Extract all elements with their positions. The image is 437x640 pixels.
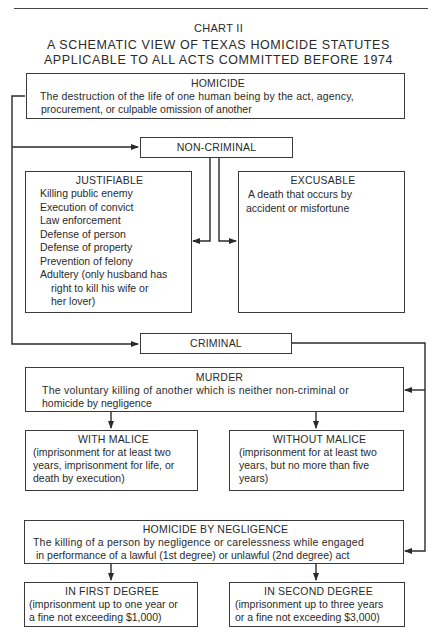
murder-box: MURDER The voluntary killing of another … xyxy=(25,367,404,412)
justifiable-item-adultery: Adultery (only husband has right to kill… xyxy=(40,268,187,309)
without-malice-line-3: years) xyxy=(239,472,400,485)
with-malice-line-2: years, imprisonment for life, or xyxy=(33,459,194,472)
chart-label: CHART II xyxy=(0,22,437,34)
murder-heading: MURDER xyxy=(42,371,397,384)
criminal-box: CRIMINAL xyxy=(140,333,292,354)
homicide-heading: HOMICIDE xyxy=(40,77,396,90)
justifiable-list: Killing public enemy Execution of convic… xyxy=(40,187,187,309)
chart-title: A SCHEMATIC VIEW OF TEXAS HOMICIDE STATU… xyxy=(0,38,437,68)
chart-title-line-1: A SCHEMATIC VIEW OF TEXAS HOMICIDE STATU… xyxy=(0,38,437,53)
second-degree-line-1: (imprisonment up to three years xyxy=(235,598,402,611)
justifiable-item: Law enforcement xyxy=(40,214,187,228)
homicide-definition-line-1: The destruction of the life of one human… xyxy=(40,90,396,103)
justifiable-item: Defense of property xyxy=(40,241,187,255)
excusable-box: EXCUSABLE A death that occurs by acciden… xyxy=(238,171,405,313)
second-degree-line-2: or a fine not exceeding $3,000) xyxy=(235,611,402,624)
non-criminal-label: NON-CRIMINAL xyxy=(141,138,292,156)
negligence-heading: HOMICIDE BY NEGLIGENCE xyxy=(33,523,398,536)
homicide-definition-line-2: procurement, or culpable omission of ano… xyxy=(40,103,396,116)
adultery-line-3: her lover) xyxy=(40,295,187,309)
top-rule xyxy=(14,8,428,9)
negligence-box: HOMICIDE BY NEGLIGENCE The killing of a … xyxy=(24,520,404,564)
excusable-heading: EXCUSABLE xyxy=(246,174,400,187)
without-malice-heading: WITHOUT MALICE xyxy=(239,433,400,446)
justifiable-item: Defense of person xyxy=(40,228,187,242)
without-malice-box: WITHOUT MALICE (imprisonment for at leas… xyxy=(229,430,404,491)
second-degree-box: IN SECOND DEGREE (imprisonment up to thr… xyxy=(229,582,405,627)
justifiable-item: Prevention of felony xyxy=(40,255,187,269)
negligence-definition-line-2: in performance of a lawful (1st degree) … xyxy=(33,549,398,562)
homicide-box: HOMICIDE The destruction of the life of … xyxy=(26,73,405,119)
without-malice-line-1: (imprisonment for at least two xyxy=(239,446,400,459)
first-degree-line-1: (imprisonment up to one year or xyxy=(29,598,195,611)
justifiable-box: JUSTIFIABLE Killing public enemy Executi… xyxy=(25,171,192,313)
first-degree-line-2: a fine not exceeding $1,000) xyxy=(29,611,195,624)
chart-title-line-2: APPLICABLE TO ALL ACTS COMMITTED BEFORE … xyxy=(0,53,437,68)
second-degree-heading: IN SECOND DEGREE xyxy=(235,585,402,598)
first-degree-heading: IN FIRST DEGREE xyxy=(29,585,195,598)
adultery-line-2: right to kill his wife or xyxy=(40,282,187,296)
murder-definition-line-2: homicide by negligence xyxy=(42,397,397,410)
excusable-line-2: accident or misfortune xyxy=(246,201,400,215)
with-malice-line-1: (imprisonment for at least two xyxy=(33,446,194,459)
without-malice-line-2: years, but no more than five xyxy=(239,459,400,472)
justifiable-heading: JUSTIFIABLE xyxy=(40,174,187,187)
non-criminal-box: NON-CRIMINAL xyxy=(140,137,293,158)
criminal-label: CRIMINAL xyxy=(141,334,291,352)
murder-definition-line-1: The voluntary killing of another which i… xyxy=(42,384,397,397)
justifiable-item: Execution of convict xyxy=(40,201,187,215)
with-malice-line-3: death by execution) xyxy=(33,472,194,485)
with-malice-box: WITH MALICE (imprisonment for at least t… xyxy=(25,430,198,491)
with-malice-heading: WITH MALICE xyxy=(33,433,194,446)
first-degree-box: IN FIRST DEGREE (imprisonment up to one … xyxy=(24,582,198,627)
adultery-line-1: Adultery (only husband has xyxy=(40,268,167,280)
negligence-definition-line-1: The killing of a person by negligence or… xyxy=(33,536,398,549)
excusable-line-1: A death that occurs by xyxy=(246,187,400,201)
justifiable-item: Killing public enemy xyxy=(40,187,187,201)
